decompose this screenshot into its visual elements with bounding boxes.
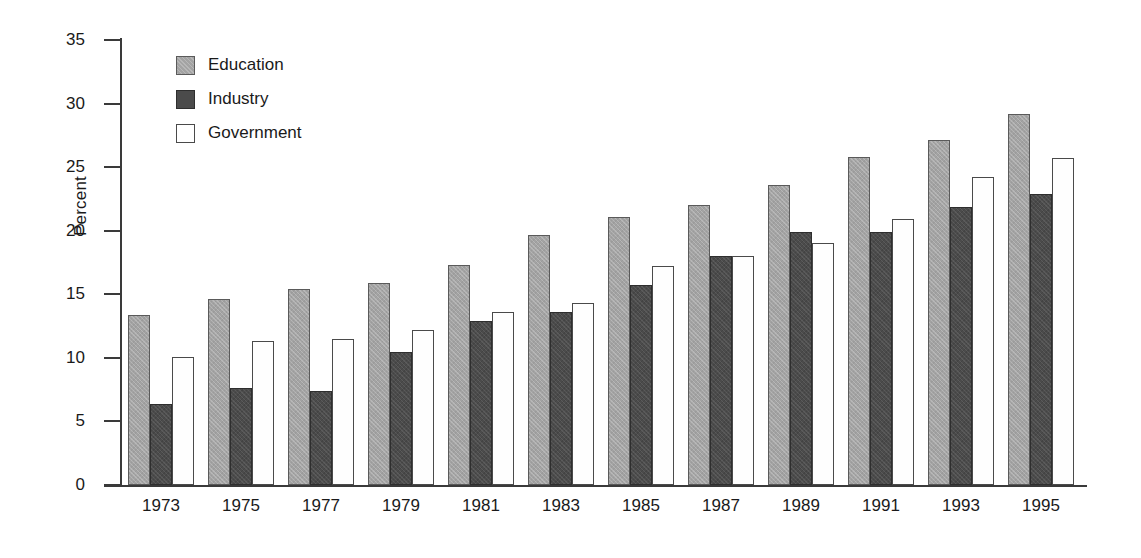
x-axis-line (104, 485, 1087, 487)
bar-education-1995 (1008, 114, 1030, 485)
y-axis-tick-label: 15 (45, 285, 85, 302)
chart-legend: EducationIndustryGovernment (176, 48, 302, 150)
x-axis-tick-label: 1985 (601, 496, 681, 516)
y-axis-tick (104, 103, 120, 105)
x-axis-tick-label: 1987 (681, 496, 761, 516)
y-axis-tick-label: 20 (45, 222, 85, 239)
bar-industry-1983 (550, 312, 572, 485)
bar-group (528, 40, 608, 485)
bar-industry-1981 (470, 321, 492, 485)
y-axis-tick (104, 293, 120, 295)
bar-government-1985 (652, 266, 674, 485)
legend-swatch-industry-icon (176, 90, 195, 109)
bar-government-1979 (412, 330, 434, 485)
x-axis-tick-label: 1983 (521, 496, 601, 516)
legend-swatch-government-icon (176, 124, 195, 143)
bar-education-1987 (688, 205, 710, 485)
y-axis-tick-label: 35 (45, 31, 85, 48)
y-axis-tick-label: 5 (45, 412, 85, 429)
y-axis-tick (104, 39, 120, 41)
bar-education-1993 (928, 140, 950, 485)
bar-government-1975 (252, 341, 274, 485)
y-axis-tick-label: 10 (45, 349, 85, 366)
bar-government-1981 (492, 312, 514, 485)
y-axis-tick (104, 230, 120, 232)
legend-label: Education (208, 55, 284, 75)
y-axis-tick (104, 166, 120, 168)
bar-industry-1977 (310, 391, 332, 485)
bar-government-1995 (1052, 158, 1074, 485)
y-axis-tick-label: 30 (45, 95, 85, 112)
bar-government-1991 (892, 219, 914, 485)
bar-education-1981 (448, 265, 470, 485)
bar-group (848, 40, 928, 485)
x-axis-tick-label: 1979 (361, 496, 441, 516)
x-axis-tick-label: 1975 (201, 496, 281, 516)
bar-education-1989 (768, 185, 790, 485)
bar-chart: Percent 05101520253035 19731975197719791… (0, 0, 1141, 558)
bar-education-1977 (288, 289, 310, 485)
bar-government-1989 (812, 243, 834, 485)
bar-education-1973 (128, 315, 150, 485)
y-axis-tick-label: 25 (45, 158, 85, 175)
legend-item-industry: Industry (176, 82, 302, 116)
bar-government-1973 (172, 357, 194, 485)
bar-group (608, 40, 688, 485)
bar-group (768, 40, 848, 485)
y-axis-line (120, 38, 122, 487)
y-axis-tick (104, 420, 120, 422)
bar-group (448, 40, 528, 485)
legend-label: Government (208, 123, 302, 143)
legend-label: Industry (208, 89, 268, 109)
bar-group (688, 40, 768, 485)
bar-industry-1973 (150, 404, 172, 485)
bar-industry-1987 (710, 256, 732, 485)
bar-group (368, 40, 448, 485)
bar-education-1985 (608, 217, 630, 485)
x-axis-tick-label: 1989 (761, 496, 841, 516)
bar-government-1977 (332, 339, 354, 485)
y-axis-tick (104, 484, 120, 486)
x-axis-tick-label: 1993 (921, 496, 1001, 516)
bar-group (928, 40, 1008, 485)
x-axis-tick-label: 1991 (841, 496, 921, 516)
x-axis-tick-label: 1977 (281, 496, 361, 516)
bar-group (1008, 40, 1088, 485)
x-axis-tick-label: 1981 (441, 496, 521, 516)
y-axis-tick-label: 0 (45, 476, 85, 493)
bar-government-1983 (572, 303, 594, 485)
bar-industry-1985 (630, 285, 652, 485)
bar-industry-1975 (230, 388, 252, 485)
legend-item-education: Education (176, 48, 302, 82)
bar-industry-1979 (390, 352, 412, 486)
bar-education-1991 (848, 157, 870, 485)
bar-industry-1989 (790, 232, 812, 485)
bar-industry-1993 (950, 207, 972, 485)
y-axis-tick (104, 357, 120, 359)
bar-education-1975 (208, 299, 230, 485)
x-axis-tick-label: 1973 (121, 496, 201, 516)
legend-item-government: Government (176, 116, 302, 150)
bar-industry-1995 (1030, 194, 1052, 485)
x-axis-tick-label: 1995 (1001, 496, 1081, 516)
bar-government-1993 (972, 177, 994, 485)
legend-swatch-education-icon (176, 56, 195, 75)
bar-industry-1991 (870, 232, 892, 485)
bar-government-1987 (732, 256, 754, 485)
bar-education-1983 (528, 235, 550, 485)
bar-education-1979 (368, 283, 390, 485)
